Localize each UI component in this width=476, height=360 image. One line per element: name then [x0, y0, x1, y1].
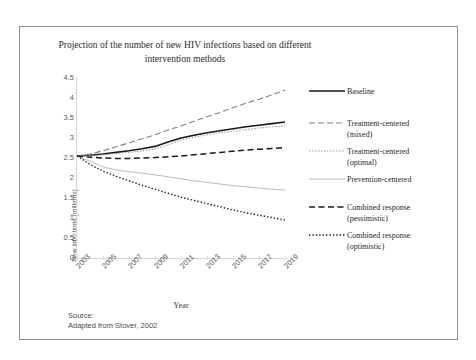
chart-title: Projection of the number of new HIV infe…: [50, 38, 320, 66]
legend-line-swatch: [308, 174, 346, 184]
legend-label-line1: Combined response: [347, 230, 410, 241]
series-line: [77, 126, 285, 156]
source-citation: Adapted from Stover, 2002: [68, 321, 157, 331]
series-lines: [77, 78, 285, 258]
series-line: [77, 90, 285, 156]
legend-label: Baseline: [347, 86, 375, 97]
legend-item[interactable]: Baseline: [308, 86, 375, 97]
legend-label-line1: Treatment-centered: [347, 118, 409, 129]
x-axis-tick-labels: 200320052007200920112013201520172019: [77, 260, 292, 300]
legend-item[interactable]: Prevention-centered: [308, 174, 411, 185]
x-axis-title: Year: [77, 300, 285, 310]
legend-item[interactable]: Treatment-centered(mixed): [308, 118, 409, 140]
source-note: Source: Adapted from Stover, 2002: [68, 311, 157, 331]
legend-label: Treatment-centered(optimal): [347, 146, 409, 168]
legend-line-swatch: [308, 86, 346, 96]
legend-label-line2: (optimistic): [347, 241, 410, 252]
legend-line-swatch: [308, 202, 346, 212]
series-line: [77, 156, 285, 190]
legend-item[interactable]: Combined response(optimistic): [308, 230, 410, 252]
legend-line-swatch: [308, 118, 346, 128]
legend-item[interactable]: Treatment-centered(optimal): [308, 146, 409, 168]
source-label: Source:: [68, 311, 157, 321]
legend-label-line1: Combined response: [347, 202, 410, 213]
y-tick-label: 4.5: [48, 73, 74, 82]
legend-line-swatch: [308, 230, 346, 240]
legend-label-line1: Baseline: [347, 86, 375, 97]
legend-label-line2: (mixed): [347, 129, 409, 140]
legend-label: Prevention-centered: [347, 174, 411, 185]
legend-item[interactable]: Combined response(pessimistic): [308, 202, 410, 224]
series-line: [77, 156, 285, 220]
y-axis-title-wrap: New infections (millions): [60, 100, 70, 220]
series-line: [77, 122, 285, 156]
legend-label: Combined response(optimistic): [347, 230, 410, 252]
plot-area: [77, 78, 285, 258]
legend-label-line2: (pessimistic): [347, 213, 410, 224]
legend-label-line1: Prevention-centered: [347, 174, 411, 185]
legend-label: Treatment-centered(mixed): [347, 118, 409, 140]
legend-line-swatch: [308, 146, 346, 156]
legend-label-line2: (optimal): [347, 157, 409, 168]
legend-label: Combined response(pessimistic): [347, 202, 410, 224]
legend-label-line1: Treatment-centered: [347, 146, 409, 157]
